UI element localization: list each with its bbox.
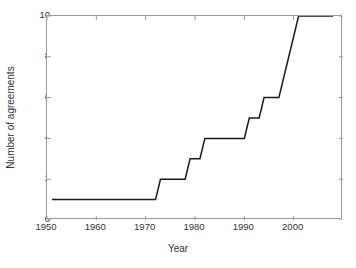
x-tick-label-1990: 1990 [233,222,254,232]
plot-area [46,15,342,219]
y-tick-marks [47,16,343,220]
y-axis-label: Number of agreements [5,66,16,168]
x-tick-label-1970: 1970 [134,222,155,232]
x-tick-label-1980: 1980 [183,222,204,232]
x-tick-label-1960: 1960 [85,222,106,232]
data-series-line [52,16,333,200]
chart-figure: Number of agreements 0 2 4 6 8 10 1950 1… [0,0,356,268]
plot-svg [47,16,343,220]
x-tick-label-2000: 2000 [282,222,303,232]
x-tick-label-1950: 1950 [35,222,56,232]
y-axis-label-container: Number of agreements [0,0,20,234]
x-axis-label: Year [0,243,356,254]
